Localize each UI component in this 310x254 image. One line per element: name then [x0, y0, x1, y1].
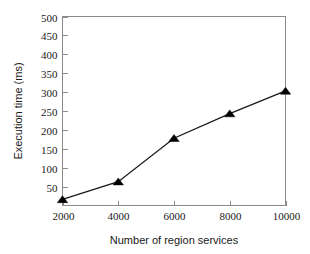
chart-figure: 50100150200250300350400450500 2000400060…	[0, 0, 310, 254]
y-axis-title: Execution time (ms)	[12, 62, 24, 159]
y-tick-label: 350	[41, 68, 58, 80]
y-tick-label: 450	[41, 30, 58, 42]
line-chart: 50100150200250300350400450500 2000400060…	[0, 0, 310, 254]
y-tick-label: 500	[41, 12, 58, 24]
y-tick-label: 400	[41, 49, 58, 61]
x-tick-label: 10000	[273, 210, 301, 222]
y-tick-label: 150	[41, 144, 58, 156]
x-axis-title: Number of region services	[110, 234, 239, 246]
x-tick-label: 6000	[164, 210, 187, 222]
x-tick-label: 4000	[108, 210, 131, 222]
y-tick-label: 250	[41, 106, 58, 118]
x-tick-label: 2000	[53, 210, 76, 222]
y-tick-label: 200	[41, 125, 58, 137]
y-tick-label: 100	[41, 163, 58, 175]
x-tick-label: 8000	[220, 210, 243, 222]
y-tick-label: 300	[41, 87, 58, 99]
y-tick-label: 50	[47, 182, 59, 194]
